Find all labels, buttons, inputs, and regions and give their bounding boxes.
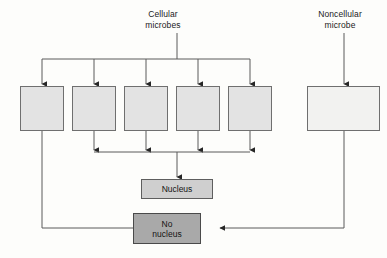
label-cellular-microbes: Cellular microbes — [118, 9, 208, 30]
blank-box-1[interactable] — [20, 86, 64, 131]
blank-box-6-noncellular[interactable] — [307, 86, 380, 131]
blank-box-2[interactable] — [72, 86, 116, 131]
diagram-canvas: Cellular microbes Noncellular microbe Nu… — [0, 0, 387, 258]
outcome-nucleus[interactable]: Nucleus — [141, 179, 213, 199]
blank-box-5[interactable] — [228, 86, 272, 131]
outcome-no-nucleus[interactable]: No nucleus — [133, 213, 201, 244]
label-noncellular-microbe: Noncellular microbe — [300, 9, 380, 30]
blank-box-3[interactable] — [124, 86, 168, 131]
blank-box-4[interactable] — [176, 86, 220, 131]
edge-blank-6-to-no-nucleus — [220, 131, 344, 228]
